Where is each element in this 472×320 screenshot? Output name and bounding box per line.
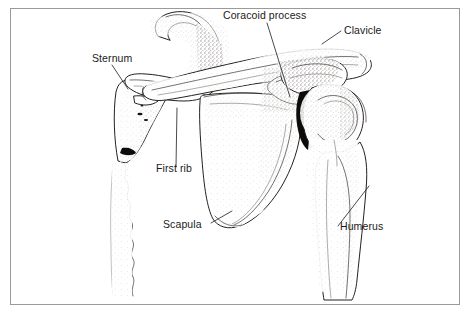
- label-sternum: Sternum: [92, 52, 133, 64]
- label-first-rib: First rib: [156, 162, 192, 174]
- bone-humerus: [296, 80, 372, 304]
- label-scapula: Scapula: [163, 218, 202, 230]
- label-clavicle: Clavicle: [344, 24, 382, 36]
- costal-facet-mark: [137, 113, 142, 116]
- label-coracoid-process: Coracoid process: [223, 9, 306, 21]
- figure-root: Coracoid process Clavicle Sternum First …: [0, 0, 472, 320]
- label-humerus: Humerus: [340, 220, 383, 232]
- leader-line-clavicle: [322, 31, 341, 44]
- leader-line-first-rib: [176, 108, 177, 167]
- bone-sternum: [110, 74, 180, 297]
- anatomy-illustration: Coracoid process Clavicle Sternum First …: [0, 0, 472, 320]
- costal-facet-mark: [144, 119, 148, 121]
